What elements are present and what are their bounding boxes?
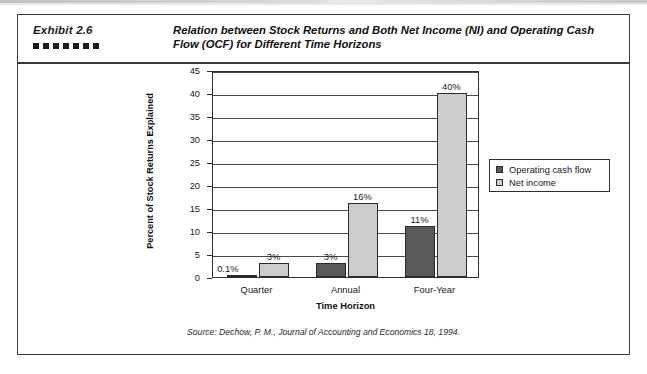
plot-area: 0.1%3%3%16%11%40% [212, 71, 479, 278]
legend-swatch-icon-net-income [496, 179, 503, 186]
y-tick-label: 0 [195, 273, 200, 283]
y-tick-label: 45 [190, 66, 200, 76]
bar-quarter-net-income [259, 263, 289, 277]
y-tick-mark [207, 232, 212, 233]
chart-legend: Operating cash flow Net income [489, 159, 610, 192]
y-tick-mark [207, 71, 212, 72]
y-tick-mark [207, 278, 212, 279]
legend-label-net-income: Net income [509, 178, 556, 188]
x-axis-label-four-year: Four-Year [414, 284, 455, 295]
bar-value-label: 0.1% [217, 263, 238, 274]
y-tick-label: 20 [190, 181, 200, 191]
exhibit-label: Exhibit 2.6 [33, 24, 173, 36]
legend-item-operating-cash-flow: Operating cash flow [496, 163, 609, 176]
legend-swatch-icon-operating-cash-flow [496, 166, 503, 173]
x-axis-label-annual: Annual [331, 284, 360, 295]
exhibit-dot-row [33, 43, 173, 49]
bar-annual-net-income [348, 203, 378, 277]
y-tick-label: 35 [190, 112, 200, 122]
exhibit-dot-icon [53, 43, 59, 49]
y-tick-mark [207, 255, 212, 256]
legend-item-net-income: Net income [496, 176, 609, 189]
exhibit-frame: Exhibit 2.6 Relation between Stock Retur… [17, 14, 630, 355]
y-tick-label: 5 [195, 250, 200, 260]
page-scan-artifact-top-2 [0, 3, 647, 5]
y-tick-label: 30 [190, 135, 200, 145]
bar-value-label: 11% [410, 214, 428, 225]
x-axis-title: Time Horizon [212, 300, 479, 311]
legend-label-operating-cash-flow: Operating cash flow [509, 165, 591, 175]
y-tick-label: 10 [190, 227, 200, 237]
y-tick-mark [207, 163, 212, 164]
bar-quarter-operating-cash-flow [227, 275, 257, 278]
bar-value-label: 3% [324, 251, 338, 262]
bar-four-year-operating-cash-flow [405, 226, 435, 277]
exhibit-dot-icon [73, 43, 79, 49]
y-tick-label: 40 [190, 89, 200, 99]
x-axis-label-quarter: Quarter [241, 284, 273, 295]
bar-four-year-net-income [437, 93, 467, 277]
bars-layer: 0.1%3%3%16%11%40% [213, 72, 478, 277]
y-tick-mark [207, 186, 212, 187]
bar-value-label: 40% [442, 81, 461, 92]
exhibit-dot-icon [33, 43, 39, 49]
bar-value-label: 16% [353, 191, 372, 202]
chart-title: Relation between Stock Returns and Both … [173, 23, 613, 51]
source-note: Source: Dechow, P. M., Journal of Accoun… [18, 327, 629, 337]
bar-annual-operating-cash-flow [316, 263, 346, 277]
y-axis-title: Percent of Stock Returns Explained [145, 67, 159, 275]
exhibit-dot-icon [43, 43, 49, 49]
y-tick-label: 15 [190, 204, 200, 214]
y-tick-mark [207, 140, 212, 141]
exhibit-label-block: Exhibit 2.6 [33, 24, 173, 49]
exhibit-dot-icon [83, 43, 89, 49]
y-tick-mark [207, 117, 212, 118]
y-tick-label: 25 [190, 158, 200, 168]
header-divider [18, 62, 629, 64]
bar-value-label: 3% [267, 251, 281, 262]
y-tick-mark [207, 94, 212, 95]
y-tick-mark [207, 209, 212, 210]
chart-figure: Percent of Stock Returns Explained 0.1%3… [169, 67, 499, 297]
exhibit-dot-icon [63, 43, 69, 49]
exhibit-dot-icon [93, 43, 99, 49]
